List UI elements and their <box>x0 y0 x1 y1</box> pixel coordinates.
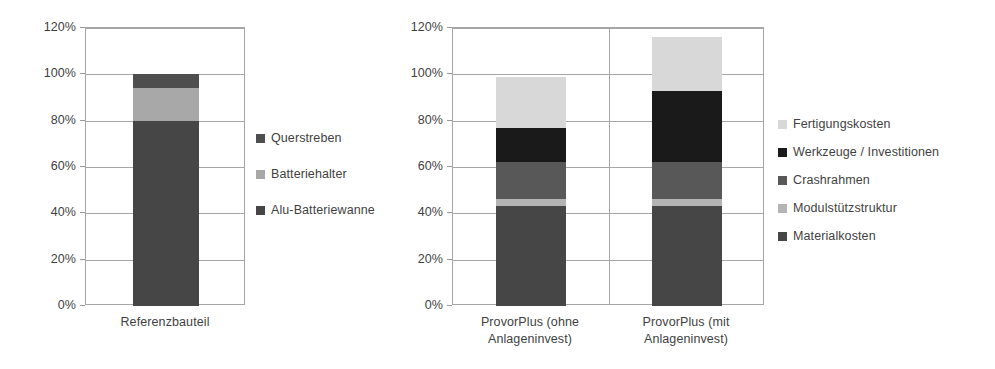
legend-label: Materialkosten <box>793 230 876 243</box>
x-axis-label: Referenzbauteil <box>85 314 245 331</box>
stacked-bar[interactable] <box>133 28 199 306</box>
legend-swatch-icon <box>256 134 265 143</box>
y-axis-tick-label: 40% <box>51 206 76 219</box>
y-axis-tick <box>447 259 452 260</box>
stacked-bar[interactable] <box>652 28 722 306</box>
legend-item[interactable]: Querstreben <box>256 132 342 145</box>
y-axis-tick-label: 20% <box>418 252 443 265</box>
left-chart: 0%20%40%60%80%100%120% Referenzbauteil Q… <box>0 0 400 369</box>
bar-segment[interactable] <box>652 162 722 199</box>
legend-label: Fertigungskosten <box>793 118 891 131</box>
y-axis-tick <box>447 120 452 121</box>
bar-segment[interactable] <box>496 206 566 306</box>
legend-item[interactable]: Materialkosten <box>778 230 876 243</box>
legend-swatch-icon <box>778 204 787 213</box>
y-axis-tick <box>80 27 85 28</box>
y-axis-tick-label: 100% <box>44 67 76 80</box>
y-axis-tick <box>80 73 85 74</box>
y-axis-tick-label: 0% <box>425 299 443 312</box>
bar-segment[interactable] <box>133 74 199 88</box>
figure-root: 0%20%40%60%80%100%120% Referenzbauteil Q… <box>0 0 995 369</box>
bar-segment[interactable] <box>496 77 566 128</box>
bar-segment[interactable] <box>652 37 722 90</box>
legend-swatch-icon <box>778 120 787 129</box>
right-plot-area <box>452 27 764 305</box>
bar-segment[interactable] <box>496 199 566 206</box>
y-axis-tick-label: 60% <box>51 160 76 173</box>
y-axis-tick-label: 120% <box>44 21 76 34</box>
bar-segment[interactable] <box>133 88 199 120</box>
x-axis-label: ProvorPlus (ohne Anlageninvest) <box>452 314 608 347</box>
legend-item[interactable]: Werkzeuge / Investitionen <box>778 146 939 159</box>
bar-segment[interactable] <box>496 162 566 199</box>
right-chart: 0%20%40%60%80%100%120% ProvorPlus (ohne … <box>400 0 995 369</box>
y-axis-tick-label: 0% <box>58 299 76 312</box>
legend-item[interactable]: Crashrahmen <box>778 174 870 187</box>
y-axis-tick-label: 120% <box>411 21 443 34</box>
legend-label: Batteriehalter <box>271 168 347 181</box>
bar-segment[interactable] <box>652 206 722 306</box>
y-axis-tick <box>447 212 452 213</box>
legend-swatch-icon <box>256 170 265 179</box>
y-axis-tick <box>447 166 452 167</box>
legend-label: Querstreben <box>271 132 342 145</box>
y-axis-tick <box>447 305 452 306</box>
legend-label: Crashrahmen <box>793 174 870 187</box>
y-axis-tick <box>80 305 85 306</box>
legend-swatch-icon <box>778 232 787 241</box>
y-axis-tick-label: 60% <box>418 160 443 173</box>
y-axis-tick-label: 80% <box>418 113 443 126</box>
legend-item[interactable]: Fertigungskosten <box>778 118 891 131</box>
legend-label: Modulstützstruktur <box>793 202 897 215</box>
legend-swatch-icon <box>778 176 787 185</box>
legend-item[interactable]: Batteriehalter <box>256 168 347 181</box>
y-axis-tick <box>447 73 452 74</box>
y-axis-tick <box>447 27 452 28</box>
y-axis-tick-label: 40% <box>418 206 443 219</box>
y-axis-tick-label: 20% <box>51 252 76 265</box>
legend-item[interactable]: Modulstützstruktur <box>778 202 897 215</box>
x-axis-label: ProvorPlus (mit Anlageninvest) <box>608 314 764 347</box>
y-axis-tick <box>80 259 85 260</box>
bar-segment[interactable] <box>652 199 722 206</box>
legend-label: Alu-Batteriewanne <box>271 204 375 217</box>
y-axis-tick <box>80 212 85 213</box>
bar-segment[interactable] <box>496 128 566 163</box>
legend-label: Werkzeuge / Investitionen <box>793 146 939 159</box>
legend-swatch-icon <box>778 148 787 157</box>
stacked-bar[interactable] <box>496 28 566 306</box>
legend-swatch-icon <box>256 206 265 215</box>
legend-item[interactable]: Alu-Batteriewanne <box>256 204 375 217</box>
y-axis-tick <box>80 120 85 121</box>
left-plot-area <box>85 27 245 305</box>
bar-segment[interactable] <box>652 91 722 163</box>
category-separator <box>609 28 610 304</box>
y-axis-tick-label: 100% <box>411 67 443 80</box>
y-axis-tick-label: 80% <box>51 113 76 126</box>
bar-segment[interactable] <box>133 121 199 306</box>
y-axis-tick <box>80 166 85 167</box>
